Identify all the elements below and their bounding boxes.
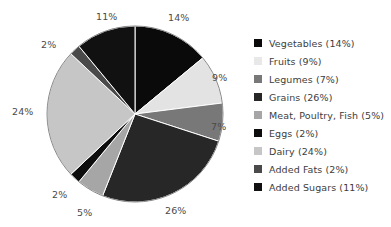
legend-swatch-icon: [254, 111, 262, 119]
pie-percentage-label: 5%: [77, 208, 92, 218]
legend-item-label: Eggs (2%): [269, 128, 318, 139]
legend-swatch-icon: [254, 39, 262, 47]
legend-item-label: Added Sugars (11%): [269, 182, 368, 193]
legend-item-label: Legumes (7%): [269, 74, 339, 85]
pie-percentage-label: 7%: [211, 122, 226, 132]
legend-item-label: Grains (26%): [269, 92, 332, 103]
legend-item-label: Vegetables (14%): [269, 38, 355, 49]
legend-swatch-icon: [254, 183, 262, 191]
legend-item[interactable]: Added Fats (2%): [254, 160, 391, 178]
pie-plot-area: 14%9%7%26%5%2%24%2%11%: [0, 0, 250, 227]
legend-item[interactable]: Added Sugars (11%): [254, 178, 391, 196]
legend-item-label: Fruits (9%): [269, 56, 322, 67]
pie-chart-figure: 14%9%7%26%5%2%24%2%11% Vegetables (14%)F…: [0, 0, 391, 227]
legend-item[interactable]: Dairy (24%): [254, 142, 391, 160]
legend-swatch-icon: [254, 129, 262, 137]
pie-percentage-label: 11%: [96, 12, 117, 22]
legend-item-label: Added Fats (2%): [269, 164, 348, 175]
legend-swatch-icon: [254, 75, 262, 83]
pie-percentage-label: 24%: [12, 107, 33, 117]
legend-item[interactable]: Eggs (2%): [254, 124, 391, 142]
pie-percentage-label: 2%: [41, 40, 56, 50]
legend-item[interactable]: Fruits (9%): [254, 52, 391, 70]
legend-swatch-icon: [254, 57, 262, 65]
legend-swatch-icon: [254, 165, 262, 173]
pie-slice-group: [47, 26, 223, 202]
pie-percentage-label: 2%: [52, 190, 67, 200]
legend-item[interactable]: Meat, Poultry, Fish (5%): [254, 106, 391, 124]
pie-percentage-label: 14%: [168, 13, 189, 23]
legend-swatch-icon: [254, 93, 262, 101]
chart-legend: Vegetables (14%)Fruits (9%)Legumes (7%)G…: [254, 34, 391, 196]
legend-item-label: Dairy (24%): [269, 146, 327, 157]
pie-percentage-label: 9%: [212, 73, 227, 83]
pie-percentage-label: 26%: [165, 206, 186, 216]
legend-swatch-icon: [254, 147, 262, 155]
legend-item[interactable]: Vegetables (14%): [254, 34, 391, 52]
legend-item-label: Meat, Poultry, Fish (5%): [269, 110, 384, 121]
pie-svg: [0, 0, 250, 227]
legend-item[interactable]: Grains (26%): [254, 88, 391, 106]
legend-item[interactable]: Legumes (7%): [254, 70, 391, 88]
